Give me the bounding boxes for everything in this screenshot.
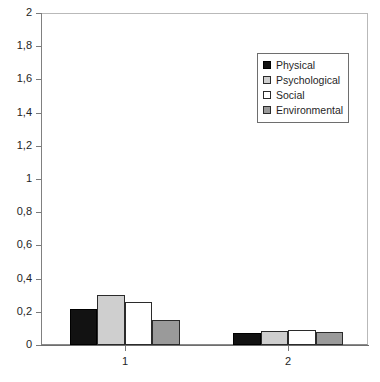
x-tick-label: 1 [105, 355, 145, 367]
legend-swatch-icon [263, 76, 271, 84]
legend-item-psychological: Psychological [263, 73, 343, 87]
y-tick-label: 1,2 [17, 140, 32, 151]
bar-social-group-2 [288, 330, 316, 345]
y-tick-mark [36, 13, 41, 14]
bar-physical-group-2 [233, 333, 261, 345]
y-tick-label: 1 [26, 173, 32, 184]
y-tick-mark [36, 245, 41, 246]
y-tick-mark [36, 312, 41, 313]
legend-swatch-icon [263, 106, 271, 114]
y-tick-mark [36, 179, 41, 180]
legend-label: Physical [276, 60, 315, 71]
legend-swatch-icon [263, 61, 271, 69]
y-tick-mark [36, 113, 41, 114]
legend-swatch-icon [263, 91, 271, 99]
legend-item-physical: Physical [263, 58, 343, 72]
y-tick-label: 0,6 [17, 239, 32, 250]
y-tick-label: 0 [26, 339, 32, 350]
y-tick-mark [36, 212, 41, 213]
chart-legend: PhysicalPsychologicalSocialEnvironmental [257, 53, 349, 123]
x-tick-mark [125, 346, 126, 351]
y-tick-label: 0,8 [17, 206, 32, 217]
y-tick-label: 0,4 [17, 273, 32, 284]
legend-label: Psychological [276, 75, 340, 86]
x-tick-label: 2 [268, 355, 308, 367]
bar-social-group-1 [125, 302, 153, 345]
legend-item-environmental: Environmental [263, 103, 343, 117]
y-axis-line [41, 13, 42, 346]
y-tick-mark [36, 46, 41, 47]
bar-environmental-group-2 [316, 332, 344, 345]
y-tick-label: 1,8 [17, 40, 32, 51]
y-tick-mark [36, 279, 41, 280]
bar-physical-group-1 [70, 309, 98, 345]
y-tick-mark [36, 345, 41, 346]
y-tick-label: 1,4 [17, 107, 32, 118]
y-tick-label: 0,2 [17, 306, 32, 317]
y-tick-mark [36, 146, 41, 147]
y-tick-label: 2 [26, 7, 32, 18]
x-tick-mark [288, 346, 289, 351]
y-tick-mark [36, 79, 41, 80]
y-tick-label: 1,6 [17, 73, 32, 84]
x-axis-line [41, 345, 369, 346]
bar-psychological-group-1 [97, 295, 125, 345]
bar-psychological-group-2 [261, 331, 289, 345]
legend-label: Environmental [276, 105, 343, 116]
legend-label: Social [276, 90, 305, 101]
legend-item-social: Social [263, 88, 343, 102]
bar-chart: 00,20,40,60,811,21,41,61,82 12 PhysicalP… [0, 0, 380, 382]
bar-environmental-group-1 [152, 320, 180, 345]
